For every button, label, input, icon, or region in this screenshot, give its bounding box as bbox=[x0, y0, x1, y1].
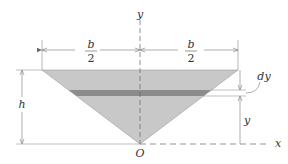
x-axis-label: x bbox=[275, 137, 282, 150]
half-width-left-den: 2 bbox=[88, 52, 95, 65]
dy-leader bbox=[246, 82, 260, 93]
half-width-right-num: b bbox=[187, 38, 194, 51]
y-axis-label: y bbox=[136, 8, 144, 21]
height-label: h bbox=[18, 98, 25, 111]
origin-label: O bbox=[135, 147, 144, 160]
half-width-right-den: 2 bbox=[188, 52, 195, 65]
triangle-diagram: b 2 b 2 y x O h dy y bbox=[0, 0, 288, 164]
half-width-left-num: b bbox=[87, 38, 94, 51]
strip-height-label: y bbox=[243, 114, 251, 127]
dy-label: dy bbox=[257, 70, 271, 83]
